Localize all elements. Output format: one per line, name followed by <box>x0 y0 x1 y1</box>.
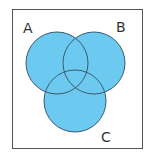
set-a-label: A <box>23 20 33 36</box>
set-c-label: C <box>101 129 111 145</box>
venn-diagram: A B C <box>0 0 151 157</box>
set-b-label: B <box>116 19 126 35</box>
